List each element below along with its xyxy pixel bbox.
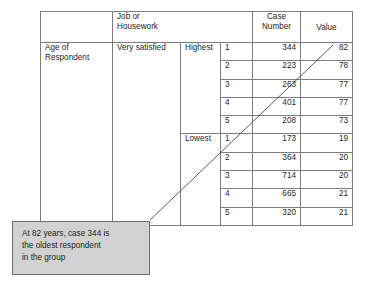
header-value: Value — [301, 12, 353, 43]
row-label-category: Very satisfied — [113, 43, 181, 226]
case-number-cell: 364 — [253, 152, 301, 170]
variable-line2: Respondent — [45, 53, 108, 63]
rank-cell: 3 — [221, 79, 253, 97]
callout-line-3: in the group — [22, 252, 141, 264]
case-number-cell: 320 — [253, 207, 301, 225]
rank-cell: 5 — [221, 116, 253, 134]
annotation-callout: At 82 years, case 344 is the oldest resp… — [12, 221, 150, 275]
value-cell: 77 — [301, 79, 353, 97]
case-number-cell: 714 — [253, 171, 301, 189]
case-number-cell: 263 — [253, 79, 301, 97]
header-case-line1: Case — [257, 12, 296, 22]
extreme-values-table: Job or Housework Case Number Value Age o… — [40, 11, 353, 226]
header-blank-cell — [41, 12, 113, 43]
value-cell: 20 — [301, 171, 353, 189]
header-case-number: Case Number — [253, 12, 301, 43]
header-value-label: Value — [305, 23, 348, 33]
value-cell: 73 — [301, 116, 353, 134]
value-cell: 78 — [301, 61, 353, 79]
case-number-cell: 344 — [253, 43, 301, 61]
rank-cell: 1 — [221, 43, 253, 61]
rank-cell: 4 — [221, 97, 253, 115]
header-job-line2: Housework — [117, 22, 248, 32]
value-cell: 21 — [301, 207, 353, 225]
value-cell: 19 — [301, 134, 353, 152]
rank-cell: 2 — [221, 61, 253, 79]
case-number-cell: 208 — [253, 116, 301, 134]
row-label-lowest: Lowest — [181, 134, 221, 225]
value-cell: 77 — [301, 97, 353, 115]
case-number-cell: 401 — [253, 97, 301, 115]
callout-line-2: the oldest respondent — [22, 240, 141, 252]
variable-line1: Age of — [45, 43, 108, 53]
case-number-cell: 173 — [253, 134, 301, 152]
table-row: Age of Respondent Very satisfied Highest… — [41, 43, 353, 61]
header-job-or-housework: Job or Housework — [113, 12, 253, 43]
case-number-cell: 665 — [253, 189, 301, 207]
document-figure: Job or Housework Case Number Value Age o… — [0, 0, 367, 290]
value-cell: 20 — [301, 152, 353, 170]
rank-cell: 5 — [221, 207, 253, 225]
rank-cell: 1 — [221, 134, 253, 152]
header-case-line2: Number — [257, 22, 296, 32]
case-number-cell: 223 — [253, 61, 301, 79]
table-header-row: Job or Housework Case Number Value — [41, 12, 353, 43]
value-cell: 21 — [301, 189, 353, 207]
rank-cell: 2 — [221, 152, 253, 170]
row-label-variable: Age of Respondent — [41, 43, 113, 226]
rank-cell: 3 — [221, 171, 253, 189]
callout-line-1: At 82 years, case 344 is — [22, 228, 141, 240]
header-job-line1: Job or — [117, 12, 248, 22]
row-label-highest: Highest — [181, 43, 221, 134]
value-cell: 82 — [301, 43, 353, 61]
rank-cell: 4 — [221, 189, 253, 207]
